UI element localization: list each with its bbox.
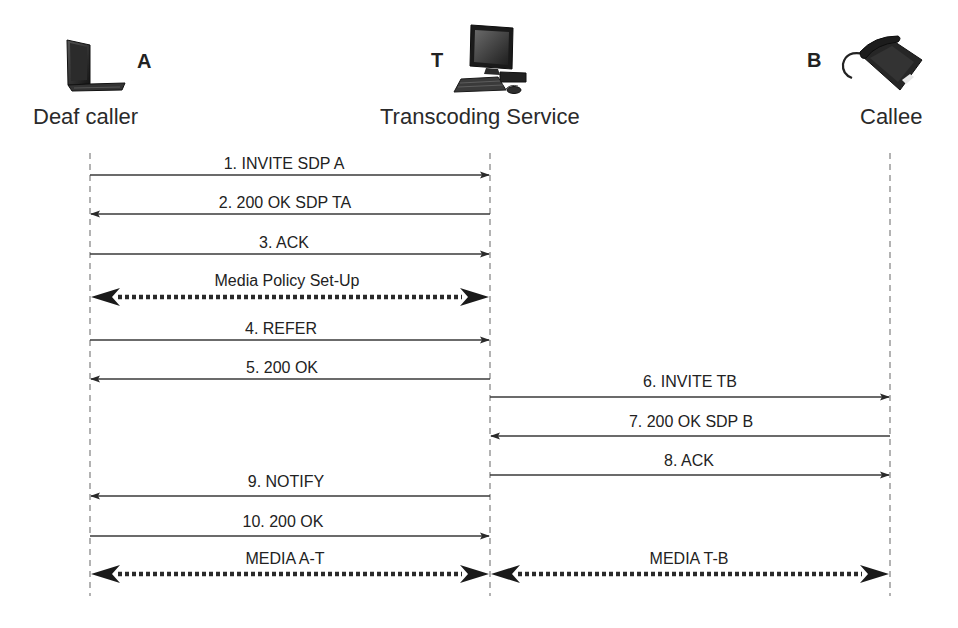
message-label-3: 3. ACK: [259, 235, 309, 251]
sequence-diagram-canvas: [0, 0, 958, 628]
message-label-10: 10. 200 OK: [243, 514, 324, 530]
message-label-9: 9. NOTIFY: [248, 474, 324, 490]
message-label-8: 8. ACK: [664, 453, 714, 469]
media-a-t-arrow: [91, 565, 489, 583]
media-t-b-arrow: [491, 565, 889, 583]
message-label-media-policy: Media Policy Set-Up: [215, 273, 360, 289]
media-policy-arrow: [91, 288, 489, 306]
message-label-5: 5. 200 OK: [246, 360, 318, 376]
message-label-6: 6. INVITE TB: [643, 374, 737, 390]
message-label-2: 2. 200 OK SDP TA: [219, 195, 352, 211]
message-label-media-t-b: MEDIA T-B: [650, 551, 729, 567]
message-label-1: 1. INVITE SDP A: [224, 156, 345, 172]
message-label-4: 4. REFER: [245, 321, 317, 337]
message-label-media-a-t: MEDIA A-T: [245, 551, 324, 567]
message-label-7: 7. 200 OK SDP B: [629, 414, 753, 430]
